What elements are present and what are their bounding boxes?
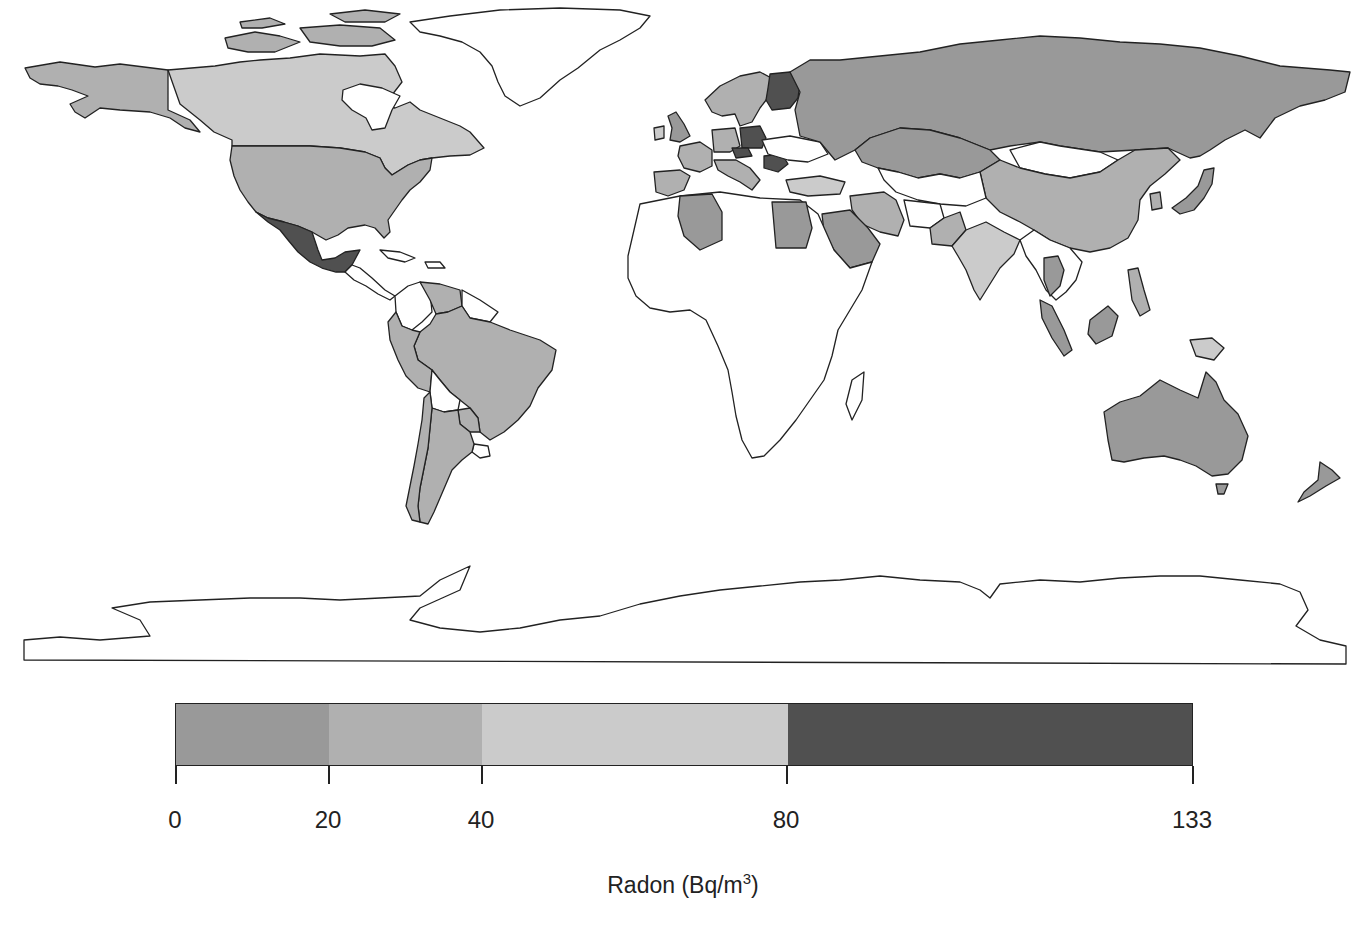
legend-tick-133 — [1192, 766, 1194, 784]
region-tasmania — [1216, 484, 1228, 494]
region-antarctica — [24, 566, 1346, 664]
region-turkey — [786, 176, 845, 196]
region-france — [678, 142, 712, 172]
color-scale-legend — [175, 703, 1193, 766]
legend-tick-label: 80 — [773, 806, 800, 834]
region-balkans-italy — [714, 160, 760, 190]
legend-tick-40 — [481, 766, 483, 784]
legend-bin-40-80 — [482, 704, 788, 765]
legend-tick-label: 20 — [315, 806, 342, 834]
region-papua — [1190, 338, 1224, 360]
region-borneo — [1088, 306, 1118, 344]
region-new-zealand — [1298, 462, 1340, 502]
region-uk — [668, 112, 690, 142]
region-greenland — [410, 8, 650, 106]
world-choropleth-map — [0, 0, 1366, 680]
region-norway-sweden — [705, 72, 775, 126]
legend-bin-80-133 — [788, 704, 1192, 765]
region-poland — [740, 126, 766, 148]
region-egypt — [772, 202, 812, 248]
region-uruguay — [472, 444, 490, 458]
legend-tick-20 — [328, 766, 330, 784]
legend-bin-0-20 — [176, 704, 329, 765]
region-australia — [1104, 372, 1248, 476]
region-malaysia-sumatra — [1040, 300, 1072, 356]
legend-tick-label: 40 — [468, 806, 495, 834]
region-arctic-islands — [225, 10, 400, 52]
region-india — [952, 222, 1020, 300]
legend-tick-0 — [175, 766, 177, 784]
region-czechia — [732, 148, 752, 158]
region-korea — [1150, 192, 1162, 210]
region-philippines — [1128, 268, 1150, 316]
legend-tick-label: 133 — [1172, 806, 1212, 834]
legend-title: Radon (Bq/m3) — [0, 870, 1366, 899]
region-ireland — [654, 126, 664, 140]
region-central-america — [345, 265, 395, 300]
region-caribbean — [380, 250, 445, 268]
region-japan — [1172, 168, 1214, 214]
legend-bin-20-40 — [329, 704, 482, 765]
region-spain-portugal — [654, 170, 690, 196]
legend-tick-80 — [786, 766, 788, 784]
legend-tick-label: 0 — [168, 806, 181, 834]
region-madagascar — [846, 372, 864, 420]
